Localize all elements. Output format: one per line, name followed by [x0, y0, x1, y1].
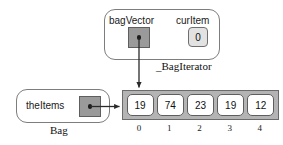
array-index-label: 0: [126, 123, 153, 133]
array-index-labels: 01234: [122, 123, 279, 137]
bag-class-caption: Bag: [50, 124, 68, 136]
array-cell: 74: [157, 94, 184, 116]
array-index-label: 4: [246, 123, 273, 133]
array-cell: 12: [247, 94, 274, 116]
array-index-label: 3: [216, 123, 243, 133]
iterator-class-caption: _BagIterator: [156, 60, 212, 72]
curitem-value-slot: 0: [188, 27, 208, 47]
array-cell: 23: [187, 94, 214, 116]
array-cell: 19: [127, 94, 154, 116]
array-index-label: 1: [156, 123, 183, 133]
field-label-theitems: theItems: [26, 100, 64, 111]
field-label-bagvector: bagVector: [109, 15, 154, 26]
object-diagram: bagVector curItem 0 _BagIterator theItem…: [0, 0, 283, 145]
bagvector-pointer-slot: [128, 27, 150, 48]
array-container: 1974231912: [122, 90, 279, 120]
array-index-label: 2: [186, 123, 213, 133]
array-cell: 19: [217, 94, 244, 116]
theitems-pointer-slot: [79, 96, 101, 117]
field-label-curitem: curItem: [176, 15, 209, 26]
